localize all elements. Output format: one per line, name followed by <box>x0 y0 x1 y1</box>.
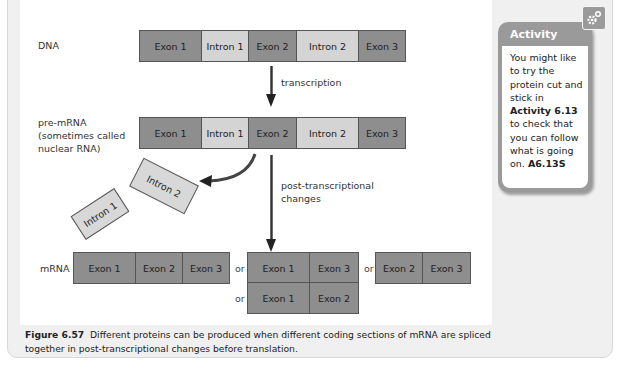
mrna-variant-1: Exon 1 Exon 2 Exon 3 <box>73 252 230 284</box>
post-transcriptional-arrow-head-icon <box>266 239 276 252</box>
mrna-variant-4: Exon 1 Exon 2 <box>247 282 359 314</box>
mrna-variant-2: Exon 1 Exon 3 <box>247 252 359 284</box>
mrna-v2-exon-3: Exon 3 <box>310 253 358 283</box>
dna-intron-2: Intron 2 <box>297 31 359 61</box>
activity-body: You might like to try the protein cut an… <box>502 46 588 188</box>
transcription-arrow-shaft <box>270 66 273 96</box>
pre-mrna-strip: Exon 1 Intron 1 Exon 2 Intron 2 Exon 3 <box>139 117 406 149</box>
splicing-curved-arrow-icon <box>195 150 265 190</box>
mrna-label: mRNA <box>40 263 69 275</box>
mrna-v3-exon-2: Exon 2 <box>376 253 423 283</box>
pre-mrna-intron-1: Intron 1 <box>202 118 249 148</box>
dna-strip: Exon 1 Intron 1 Exon 2 Intron 2 Exon 3 <box>139 30 406 62</box>
pre-mrna-sublabel-1: (sometimes called <box>38 130 125 142</box>
dna-label: DNA <box>38 40 59 52</box>
mrna-v4-exon-1: Exon 1 <box>248 283 310 313</box>
pre-mrna-exon-2: Exon 2 <box>249 118 297 148</box>
mrna-variant-3: Exon 2 Exon 3 <box>375 252 471 284</box>
activity-box: Activity You might like to try the prote… <box>498 22 592 192</box>
gear-icon <box>582 6 606 30</box>
mrna-v4-exon-2: Exon 2 <box>310 283 358 313</box>
activity-reference-link[interactable]: Activity 6.13 <box>510 105 578 116</box>
pre-mrna-sublabel-2: nuclear RNA) <box>38 143 100 155</box>
transcription-arrow-head-icon <box>266 94 276 107</box>
activity-title: Activity <box>510 28 557 41</box>
dna-exon-3: Exon 3 <box>359 31 405 61</box>
figure-caption: Figure 6.57 Different proteins can be pr… <box>25 328 495 356</box>
or-label-3: or <box>235 293 245 304</box>
post-transcriptional-arrow-shaft <box>270 155 273 241</box>
figure-caption-text: Different proteins can be produced when … <box>25 329 491 354</box>
or-label-1: or <box>235 263 245 274</box>
dna-exon-2: Exon 2 <box>249 31 297 61</box>
pre-mrna-exon-3: Exon 3 <box>359 118 405 148</box>
mrna-v1-exon-2: Exon 2 <box>136 253 183 283</box>
mrna-v1-exon-3: Exon 3 <box>183 253 229 283</box>
figure-number: Figure 6.57 <box>25 329 84 340</box>
mrna-v2-exon-1: Exon 1 <box>248 253 310 283</box>
dna-intron-1: Intron 1 <box>202 31 249 61</box>
transcription-label: transcription <box>281 77 341 89</box>
dna-exon-1: Exon 1 <box>140 31 202 61</box>
pre-mrna-intron-2: Intron 2 <box>297 118 359 148</box>
or-label-2: or <box>364 263 374 274</box>
activity-text-1: You might like to try the protein cut an… <box>510 52 583 103</box>
mrna-v3-exon-3: Exon 3 <box>423 253 470 283</box>
activity-code: A6.13S <box>528 158 566 169</box>
changes-label: changes <box>281 193 321 205</box>
post-transcriptional-label: post-transcriptional <box>281 180 374 192</box>
pre-mrna-label: pre-mRNA <box>38 117 86 129</box>
mrna-v1-exon-1: Exon 1 <box>74 253 136 283</box>
pre-mrna-exon-1: Exon 1 <box>140 118 202 148</box>
